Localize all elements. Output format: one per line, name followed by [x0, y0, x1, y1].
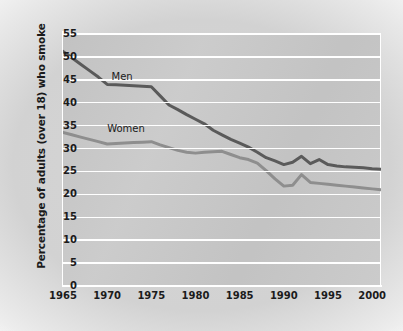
y-tick-label-10: 10 — [37, 234, 77, 245]
y-tick-label-40: 40 — [37, 96, 77, 107]
y-tick-label-30: 30 — [37, 142, 77, 153]
x-tick-label-2000: 2000 — [342, 290, 402, 301]
gridline-y-30 — [63, 148, 380, 150]
gridline-y-45 — [63, 79, 380, 81]
y-tick-label-50: 50 — [37, 50, 77, 61]
y-tick-label-25: 25 — [37, 165, 77, 176]
gridline-y-15 — [63, 217, 380, 219]
series-label-men: Men — [112, 71, 133, 82]
gridline-y-20 — [63, 194, 380, 196]
gridline-y-55 — [63, 33, 380, 35]
chart-figure: Percentage of adults (over 18) who smoke… — [0, 0, 403, 331]
y-tick-label-35: 35 — [37, 119, 77, 130]
y-tick-label-20: 20 — [37, 188, 77, 199]
gridline-y-25 — [63, 171, 380, 173]
y-tick-label-5: 5 — [37, 257, 77, 268]
line-series-women — [63, 133, 381, 190]
gridline-y-40 — [63, 102, 380, 104]
series-label-women: Women — [107, 123, 145, 134]
gridline-y-50 — [63, 56, 380, 58]
gridline-y-10 — [63, 239, 380, 241]
plot-area: MenWomen — [63, 33, 381, 285]
y-tick-label-0: 0 — [37, 280, 77, 291]
gridline-y-5 — [63, 262, 380, 264]
y-tick-label-55: 55 — [37, 28, 77, 39]
y-tick-label-15: 15 — [37, 211, 77, 222]
y-tick-label-45: 45 — [37, 73, 77, 84]
